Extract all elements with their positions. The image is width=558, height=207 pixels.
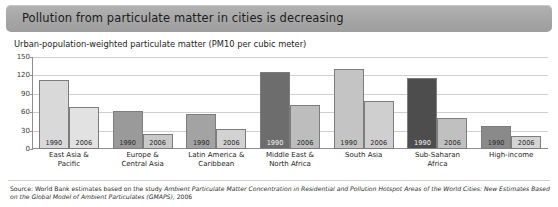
category-label-high-income: High-income [474, 151, 548, 168]
bar-year-label: 2006 [512, 139, 540, 147]
bar-year-label: 1990 [187, 139, 215, 147]
bar-year-label: 2006 [291, 139, 319, 147]
bar-south-asia-2006: 2006 [364, 101, 394, 149]
bar-year-label: 1990 [482, 139, 510, 147]
bar-year-label: 1990 [261, 139, 289, 147]
bar-year-label: 2006 [217, 139, 245, 147]
category-label-east-asia-pacific: East Asia & Pacific [32, 151, 106, 168]
source-note: Source: World Bank estimates based on th… [10, 185, 554, 200]
y-axis-tick-90: 90 [21, 90, 30, 98]
bar-group-middle-east-north-africa: 19902006 [253, 57, 327, 149]
source-suffix: , 2006 [173, 193, 192, 200]
chart-subtitle: Urban-population-weighted particulate ma… [14, 39, 306, 49]
bar-south-asia-1990: 1990 [334, 69, 364, 149]
bar-groups: 1990200619902006199020061990200619902006… [32, 57, 548, 149]
bar-year-label: 1990 [40, 139, 68, 147]
bar-latin-america-caribbean-2006: 2006 [216, 129, 246, 149]
category-label-europe-central-asia: Europe & Central Asia [106, 151, 180, 168]
bar-east-asia-pacific-2006: 2006 [69, 107, 99, 149]
bar-high-income-1990: 1990 [481, 126, 511, 149]
bar-year-label: 2006 [438, 139, 466, 147]
category-label-middle-east-north-africa: Middle East & North Africa [253, 151, 327, 168]
bar-group-sub-saharan-africa: 19902006 [401, 57, 475, 149]
bar-group-europe-central-asia: 19902006 [106, 57, 180, 149]
bar-year-label: 2006 [144, 139, 172, 147]
y-axis-tick-120: 120 [17, 71, 30, 79]
bar-high-income-2006: 2006 [511, 136, 541, 149]
bar-year-label: 1990 [335, 139, 363, 147]
bar-middle-east-north-africa-2006: 2006 [290, 105, 320, 149]
source-prefix: Source: World Bank estimates based on th… [10, 185, 164, 192]
bar-year-label: 2006 [70, 139, 98, 147]
bar-year-label: 1990 [408, 139, 436, 147]
title-banner: Pollution from particulate matter in cit… [6, 5, 552, 32]
category-label-latin-america-caribbean: Latin America & Caribbean [179, 151, 253, 168]
bar-latin-america-caribbean-1990: 1990 [186, 114, 216, 149]
y-tickmark-0 [30, 149, 33, 150]
footer-divider [8, 180, 550, 181]
bar-year-label: 2006 [365, 139, 393, 147]
bar-middle-east-north-africa-1990: 1990 [260, 72, 290, 149]
y-axis-tick-30: 30 [21, 127, 30, 135]
page-title: Pollution from particulate matter in cit… [22, 11, 344, 25]
bar-europe-central-asia-1990: 1990 [113, 111, 143, 149]
bar-sub-saharan-africa-1990: 1990 [407, 78, 437, 149]
bar-europe-central-asia-2006: 2006 [143, 134, 173, 149]
category-label-sub-saharan-africa: Sub-Saharan Africa [401, 151, 475, 168]
y-axis-tick-60: 60 [21, 108, 30, 116]
bar-sub-saharan-africa-2006: 2006 [437, 118, 467, 149]
chart-figure: Pollution from particulate matter in cit… [0, 0, 558, 207]
bar-east-asia-pacific-1990: 1990 [39, 80, 69, 149]
bar-year-label: 1990 [114, 139, 142, 147]
y-axis-tick-150: 150 [17, 53, 30, 61]
bar-group-east-asia-pacific: 19902006 [32, 57, 106, 149]
category-axis: East Asia & PacificEurope & Central Asia… [32, 151, 548, 168]
category-label-south-asia: South Asia [327, 151, 401, 168]
bar-group-latin-america-caribbean: 19902006 [179, 57, 253, 149]
bar-group-high-income: 19902006 [474, 57, 548, 149]
bar-group-south-asia: 19902006 [327, 57, 401, 149]
